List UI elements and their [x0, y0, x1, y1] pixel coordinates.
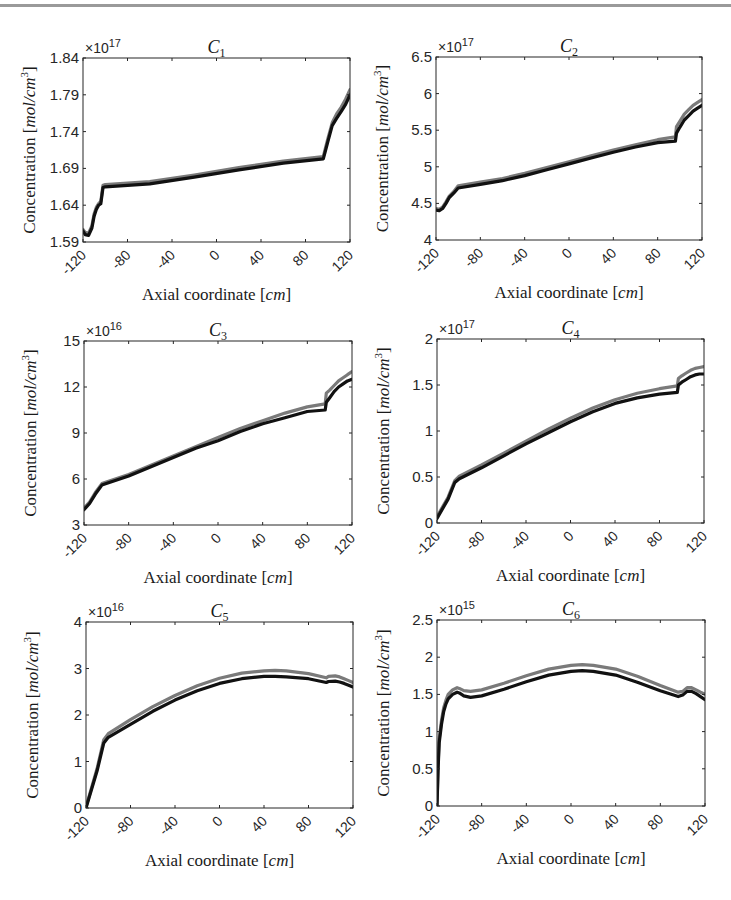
subplot-title: C6	[562, 599, 580, 622]
x-tick-label: 120	[683, 811, 711, 839]
y-tick-label: 1	[425, 723, 433, 740]
y-tick-label: 1.5	[412, 685, 433, 702]
x-tick-label: 40	[599, 811, 621, 833]
y-tick-label: 2.5	[412, 611, 433, 628]
x-tick-label: 0	[560, 811, 577, 828]
series-group	[437, 665, 705, 806]
chart-c6: -120-80-400408012000.511.522.5×1015C6Axi…	[0, 0, 731, 900]
x-axis-label: Axial coordinate [cm]	[496, 849, 645, 868]
x-tick-label: -120	[412, 811, 443, 842]
y-tick-label: 2	[425, 648, 433, 665]
y-axis-label: Concentration [mol/cm3]	[372, 629, 393, 796]
x-tick-label: -80	[462, 811, 488, 837]
axes-box	[437, 620, 705, 806]
y-exponent-label: ×1015	[439, 599, 475, 618]
y-tick-label: 0.5	[412, 760, 433, 777]
x-tick-label: -40	[507, 811, 533, 837]
y-tick-label: 0	[425, 797, 433, 814]
x-tick-label: 80	[644, 811, 666, 833]
series-upper-line	[437, 665, 705, 806]
